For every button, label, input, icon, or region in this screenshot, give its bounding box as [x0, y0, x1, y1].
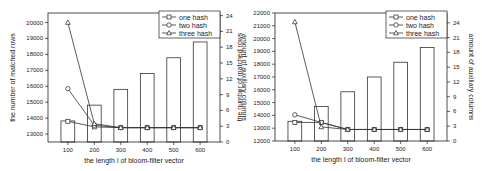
circle-marker	[66, 86, 70, 90]
x-tick-label: 500	[169, 147, 180, 153]
y-tick-label: 19000	[253, 48, 270, 54]
x-tick-label: 200	[89, 147, 100, 153]
square-marker	[66, 119, 70, 123]
triangle-marker	[65, 20, 70, 24]
y2-tick-label: 3	[453, 123, 457, 129]
legend-label: three hash	[406, 30, 439, 37]
y2-tick-label: 6	[226, 107, 230, 113]
bar	[140, 74, 154, 142]
y2-tick-label: 9	[453, 94, 457, 100]
circle-marker	[394, 23, 398, 27]
y2-tick-label: 18	[453, 49, 460, 55]
y-tick-label: 22000	[253, 10, 270, 16]
y2-tick-label: 18	[226, 44, 233, 50]
y-tick-label: 13000	[26, 131, 43, 137]
bar	[61, 121, 75, 142]
y2-tick-label: 12	[453, 79, 460, 85]
x-tick-label: 200	[316, 146, 327, 152]
x-tick-label: 600	[195, 147, 206, 153]
x-axis-title: the length l of bloom-filter vector	[84, 157, 184, 165]
y-tick-label: 20000	[253, 36, 270, 42]
series-one-hash	[66, 119, 202, 129]
y-tick-label: 19000	[26, 35, 43, 41]
bar	[341, 92, 355, 141]
y-tick-label: 14000	[253, 112, 270, 118]
circle-marker	[293, 113, 297, 117]
y2-tick-label: 15	[453, 64, 460, 70]
y-axis-title: the number of matched rows	[236, 32, 243, 121]
y-tick-label: 16000	[253, 87, 270, 93]
y2-tick-label: 0	[226, 139, 230, 145]
legend-label: one hash	[179, 14, 208, 21]
figure: 1300014000150001600017000180001900020000…	[0, 0, 482, 171]
y-tick-label: 18000	[26, 51, 43, 57]
y-tick-label: 15000	[253, 100, 270, 106]
legend-label: two hash	[179, 22, 207, 29]
x-tick-label: 300	[116, 147, 127, 153]
y-tick-label: 18000	[253, 61, 270, 67]
chart-panel-2: 1200013000140001500016000170001800019000…	[236, 10, 475, 164]
y-tick-label: 21000	[253, 23, 270, 29]
y2-tick-label: 6	[453, 108, 457, 114]
y2-tick-label: 21	[453, 35, 460, 41]
circle-marker	[167, 23, 171, 27]
y2-tick-label: 24	[226, 13, 233, 19]
y2-tick-label: 0	[453, 138, 457, 144]
y-tick-label: 12000	[253, 138, 270, 144]
y2-axis-title: amount of auxiliary columns	[467, 34, 475, 121]
y-tick-label: 14000	[26, 115, 43, 121]
y-axis-title: the number of matched rows	[9, 33, 16, 122]
y2-tick-label: 15	[226, 60, 233, 66]
x-tick-label: 300	[343, 146, 354, 152]
y-tick-label: 17000	[253, 74, 270, 80]
x-tick-label: 600	[422, 146, 433, 152]
x-tick-label: 400	[369, 146, 380, 152]
x-tick-label: 400	[142, 147, 153, 153]
chart-panel-1: 1300014000150001600017000180001900020000…	[9, 11, 248, 165]
x-axis-title: the length l of bloom-filter vector	[311, 156, 411, 164]
y-tick-label: 16000	[26, 83, 43, 89]
y-tick-label: 13000	[253, 125, 270, 131]
y-tick-label: 15000	[26, 99, 43, 105]
y2-tick-label: 12	[226, 76, 233, 82]
triangle-marker	[319, 124, 324, 128]
legend-label: two hash	[406, 22, 434, 29]
x-tick-label: 100	[290, 146, 301, 152]
legend-label: three hash	[179, 30, 212, 37]
y-tick-label: 17000	[26, 67, 43, 73]
square-marker	[293, 120, 297, 124]
triangle-marker	[292, 19, 297, 23]
x-tick-label: 100	[63, 147, 74, 153]
y-tick-label: 20000	[26, 20, 43, 26]
square-marker	[394, 15, 398, 19]
x-tick-label: 500	[396, 146, 407, 152]
legend-label: one hash	[406, 14, 435, 21]
y2-tick-label: 3	[226, 123, 230, 129]
y2-tick-label: 9	[226, 92, 230, 98]
legend: one hashtwo hashthree hash	[386, 11, 447, 38]
square-marker	[167, 15, 171, 19]
bar	[114, 89, 128, 142]
y2-tick-label: 21	[226, 28, 233, 34]
legend: one hashtwo hashthree hash	[159, 11, 220, 38]
y2-tick-label: 24	[453, 20, 460, 26]
